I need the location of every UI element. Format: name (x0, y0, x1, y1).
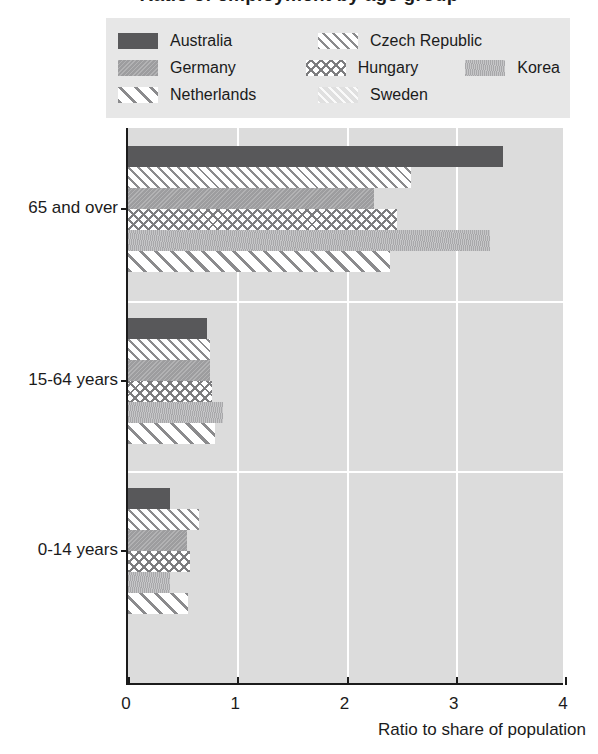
y-category-label-1: 15-64 years (0, 370, 118, 390)
y-category-label-2: 0-14 years (0, 540, 118, 560)
x-axis-title: Ratio to share of population (0, 720, 586, 740)
chart-page: Ratio of employment by age group Austral… (0, 0, 598, 754)
y-axis-category-labels: 65 and over15-64 years0-14 years (0, 0, 598, 754)
y-category-label-0: 65 and over (0, 198, 118, 218)
